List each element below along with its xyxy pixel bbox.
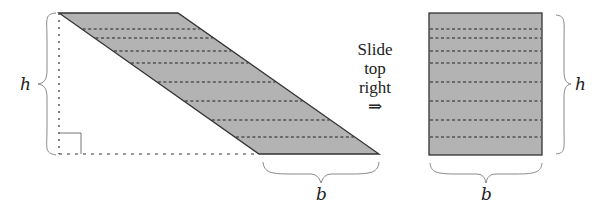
instruction-line-3: right [359, 78, 391, 97]
instruction-line-2: top [364, 59, 386, 78]
base-label-left: b [316, 184, 327, 204]
base-brace-left [263, 162, 379, 183]
right-arrow-icon: ⇒ [368, 97, 382, 116]
height-brace-right [556, 15, 571, 154]
height-brace-left [38, 13, 56, 155]
parallelogram-fill [59, 13, 379, 154]
instruction-text: Slide top right ⇒ [358, 40, 393, 116]
right-angle-marker [59, 133, 81, 154]
instruction-line-1: Slide [358, 40, 393, 59]
height-label-right: h [575, 74, 586, 94]
base-label-right: b [481, 184, 492, 204]
parallelogram [59, 13, 379, 154]
rectangle [429, 13, 542, 155]
base-brace-right [430, 163, 542, 183]
height-label-left: h [20, 74, 31, 94]
diagram-canvas: h b Slide top right ⇒ h b [0, 0, 605, 211]
rectangle-fill [429, 13, 542, 155]
